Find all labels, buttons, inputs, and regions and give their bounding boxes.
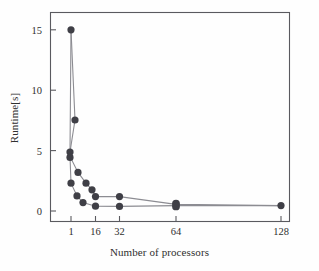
chart-figure: 0 5 10 15 1 16 32 64 128 Number of proce… [0,0,319,271]
x-tick-label-16: 16 [90,226,101,237]
y-axis-label: Runtime[s] [8,68,20,168]
data-point [67,180,74,187]
x-tick-label-128: 128 [273,226,289,237]
x-axis-label: Number of processors [0,246,319,258]
y-tick-label-10: 10 [22,85,42,96]
data-point [277,202,284,209]
data-point [116,193,123,200]
data-point [92,193,99,200]
data-point [67,26,74,33]
plot-area [0,0,319,271]
data-point [73,192,80,199]
x-tick-label-1: 1 [68,226,73,237]
data-point [79,199,86,206]
plot-frame [51,13,290,222]
data-point [116,203,123,210]
data-point [88,186,95,193]
data-point [74,169,81,176]
y-tick-label-5: 5 [22,145,42,156]
x-tick-label-32: 32 [114,226,125,237]
y-tick-label-15: 15 [22,24,42,35]
data-point [66,154,73,161]
data-point [71,116,78,123]
data-point [172,203,180,211]
x-tick-label-64: 64 [171,226,182,237]
y-tick-label-0: 0 [22,206,42,217]
data-point [92,203,99,210]
data-point [82,180,89,187]
